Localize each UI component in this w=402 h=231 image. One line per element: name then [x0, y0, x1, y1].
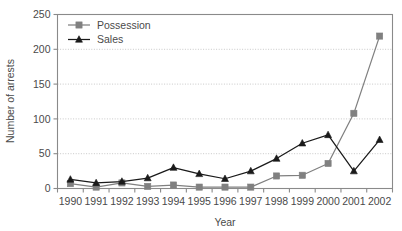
data-point-marker: [145, 183, 151, 189]
data-point-marker: [222, 184, 228, 190]
x-tick-label: 1990: [59, 195, 83, 207]
data-series-layer: [67, 33, 383, 190]
x-tick-label: 1995: [188, 195, 212, 207]
legend-label: Possession: [97, 19, 151, 31]
y-tick-label: 250: [33, 8, 51, 20]
legend-item-possession[interactable]: Possession: [68, 19, 151, 31]
y-tick-label: 100: [33, 113, 51, 125]
y-tick-label: 50: [39, 147, 51, 159]
data-point-marker: [351, 110, 357, 116]
data-point-marker: [376, 136, 383, 143]
data-point-marker: [325, 131, 332, 138]
x-tick-label: 1991: [84, 195, 108, 207]
x-tick-label: 1996: [213, 195, 237, 207]
data-point-marker: [273, 155, 280, 162]
x-tick-label: 1992: [110, 195, 134, 207]
arrests-line-chart: 050100150200250 199019911992199319941995…: [0, 0, 402, 231]
data-point-marker: [248, 184, 254, 190]
y-tick-label: 150: [33, 78, 51, 90]
x-tick-label: 2002: [368, 195, 392, 207]
legend-item-sales[interactable]: Sales: [68, 33, 123, 45]
legend-label: Sales: [97, 33, 123, 45]
y-tick-label: 0: [45, 182, 51, 194]
x-tick-label: 1997: [239, 195, 263, 207]
y-axis-ticks: [54, 15, 58, 189]
data-point-marker: [170, 182, 176, 188]
series-possession: [67, 33, 382, 190]
y-axis-title: Number of arrests: [4, 59, 16, 143]
x-tick-label: 2000: [316, 195, 340, 207]
x-tick-label: 1999: [291, 195, 315, 207]
chart-legend: PossessionSales: [68, 19, 151, 45]
data-point-marker: [67, 176, 74, 183]
series-line: [70, 36, 379, 187]
data-point-marker: [196, 184, 202, 190]
data-point-marker: [170, 164, 177, 171]
chart-container: 050100150200250 199019911992199319941995…: [0, 0, 402, 231]
x-tick-label: 1994: [162, 195, 186, 207]
x-tick-label: 1993: [136, 195, 160, 207]
data-point-marker: [76, 22, 82, 28]
y-axis-tick-labels: 050100150200250: [33, 8, 51, 194]
data-point-marker: [377, 33, 383, 39]
data-point-marker: [299, 172, 305, 178]
series-sales: [67, 131, 383, 186]
y-tick-label: 200: [33, 43, 51, 55]
x-tick-label: 2001: [342, 195, 366, 207]
data-point-marker: [273, 173, 279, 179]
data-point-marker: [325, 160, 331, 166]
x-axis-title: Year: [214, 216, 236, 228]
x-tick-label: 1998: [265, 195, 289, 207]
x-axis-tick-labels: 1990199119921993199419951996199719981999…: [59, 195, 392, 207]
